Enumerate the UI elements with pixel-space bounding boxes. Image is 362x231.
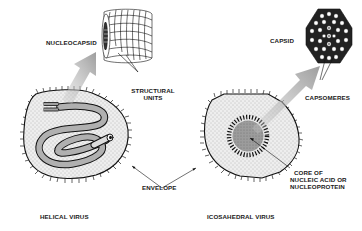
capsid-detail xyxy=(306,9,352,63)
structural-units-line2: UNITS xyxy=(127,94,179,101)
core-label-line2: NUCLEIC ACID OR xyxy=(290,176,347,183)
structural-units-label: STRUCTURAL UNITS xyxy=(127,87,179,101)
envelope-label: ENVELOPE xyxy=(142,184,177,191)
capsid-label: CAPSID xyxy=(270,37,294,44)
icosahedral-virus-title: ICOSAHEDRAL VIRUS xyxy=(207,213,275,220)
capsomeres-label: CAPSOMERES xyxy=(305,94,350,101)
helical-virus-title: HELICAL VIRUS xyxy=(40,213,89,220)
nucleocapsid-detail xyxy=(102,9,152,63)
core-label-line1: CORE OF xyxy=(290,169,347,176)
core-label-line3: NUCLEOPROTEIN xyxy=(290,183,347,190)
nucleocapsid-label: NUCLEOCAPSID xyxy=(46,39,97,46)
virus-structure-diagram: NUCLEOCAPSID STRUCTURAL UNITS CAPSID CAP… xyxy=(0,0,362,231)
core-label: CORE OF NUCLEIC ACID OR NUCLEOPROTEIN xyxy=(290,169,347,190)
structural-units-line1: STRUCTURAL xyxy=(127,87,179,94)
